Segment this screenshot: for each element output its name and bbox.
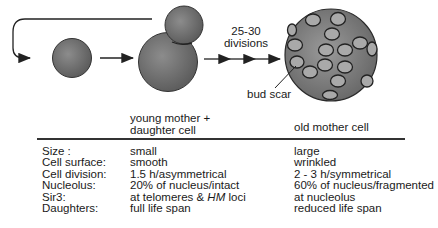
old-mother-cell <box>285 9 377 101</box>
property-nucleolus: Nucleolus: <box>42 180 107 191</box>
young-sir3-suffix: loci <box>225 191 245 203</box>
divisions-label: 25-30 divisions <box>223 25 269 49</box>
young-column: small smooth 1.5 h/asymmetrical 20% of n… <box>130 146 246 214</box>
old-daughters: reduced life span <box>294 203 434 214</box>
old-cell-header: old mother cell <box>294 121 369 133</box>
old-nucleolus: 60% of nucleus/fragmented <box>294 180 434 191</box>
bud-scar-label: bud scar <box>247 88 291 100</box>
property-column: Size : Cell surface: Cell division: Nucl… <box>42 146 107 214</box>
divisions-count: 25-30 <box>223 25 269 37</box>
young-header-line1: young mother + <box>130 112 210 124</box>
young-header-line2: daughter cell <box>130 124 210 136</box>
bud-cell <box>165 6 203 44</box>
young-daughters: full life span <box>130 203 246 214</box>
young-sir3-prefix: at telomeres & <box>130 191 207 203</box>
young-sir3-italic: HM <box>207 191 225 203</box>
header-divider <box>37 138 405 140</box>
property-daughters: Daughters: <box>42 203 107 214</box>
old-column: large wrinkled 2 - 3 h/symmetrical 60% o… <box>294 146 434 214</box>
daughter-cell <box>53 39 92 78</box>
young-cell-header: young mother + daughter cell <box>130 112 210 136</box>
divisions-word: divisions <box>223 37 269 49</box>
